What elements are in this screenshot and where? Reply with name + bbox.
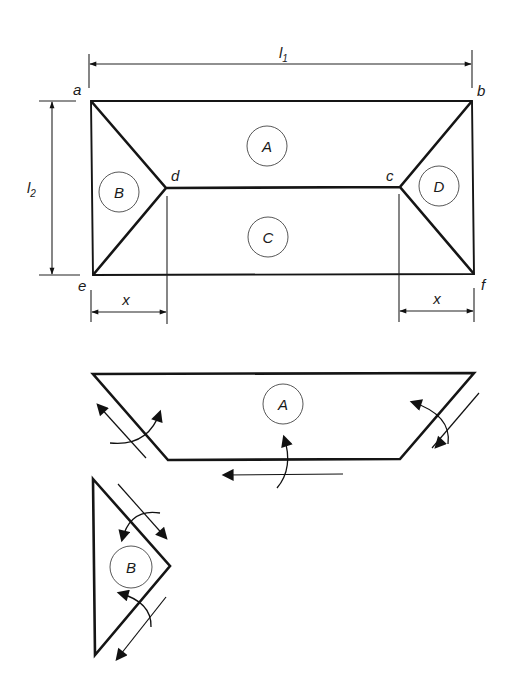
l1-label: l1 [279, 44, 288, 64]
corner-f-label: f [481, 276, 487, 293]
panel-A-label: A [277, 396, 288, 413]
l2-label: l2 [27, 179, 36, 199]
corner-a-label: a [73, 81, 81, 98]
left-hip-shear-arrow [98, 405, 146, 458]
corner-e-label: e [78, 277, 86, 294]
panel-B-freebody: B [93, 479, 170, 659]
region-B-label: B [114, 184, 124, 201]
panel-B-label: B [126, 559, 136, 576]
left-hip-moment-arrow [110, 412, 160, 443]
region-A-label: A [261, 138, 272, 155]
corner-c-label: c [386, 167, 394, 184]
hip-roof-diagram: l1 l2 x x a b d c e f A B C D A [0, 0, 514, 686]
plan-view: l1 l2 x x a b d c e f A B C D [27, 44, 487, 324]
region-C-label: C [263, 229, 274, 246]
hip-and-ridge-lines [91, 101, 474, 275]
x-right-label: x [432, 290, 441, 307]
corner-d-label: d [171, 167, 180, 184]
lower-hip-shear-arrow [117, 597, 166, 659]
right-hip-shear-line [432, 393, 479, 448]
corner-b-label: b [477, 82, 485, 99]
panel-A-outline [93, 373, 474, 460]
panel-A-freebody: A [93, 373, 479, 488]
ridge-moment-arrow [277, 437, 288, 488]
ridge-shear-arrow [224, 474, 343, 475]
x-left-label: x [121, 291, 130, 308]
region-D-label: D [434, 178, 445, 195]
